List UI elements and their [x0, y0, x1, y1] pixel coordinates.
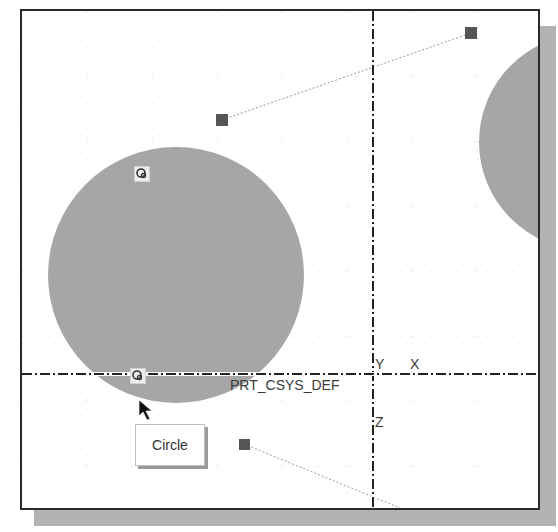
axis-y-label: Y — [375, 357, 384, 371]
axis-z-label: Z — [375, 415, 384, 429]
csys-label: PRT_CSYS_DEF — [230, 378, 339, 392]
tooltip-circle: Circle — [135, 424, 205, 466]
handle-3[interactable] — [239, 439, 250, 450]
main-circle[interactable] — [48, 147, 304, 403]
sketch-canvas[interactable] — [22, 11, 538, 508]
viewport-shadow-bottom — [34, 508, 556, 526]
graphics-viewport[interactable]: PRT_CSYS_DEF Y X Z — [20, 9, 540, 510]
handle-1[interactable] — [216, 114, 228, 126]
snap-tangent-icon — [130, 368, 146, 384]
axis-x-label: X — [410, 357, 419, 371]
viewport-shadow-right — [538, 26, 556, 526]
tooltip-text: Circle — [152, 437, 188, 453]
snap-center-icon — [134, 166, 150, 182]
handle-2[interactable] — [465, 27, 477, 39]
